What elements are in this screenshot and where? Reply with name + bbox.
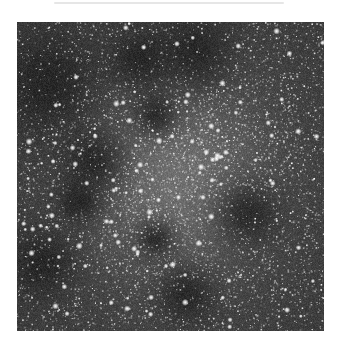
caption-glyph-remnant <box>54 2 284 4</box>
star-field-image <box>17 22 324 331</box>
star-field-canvas <box>17 22 324 331</box>
cropped-caption-text <box>14 0 330 6</box>
